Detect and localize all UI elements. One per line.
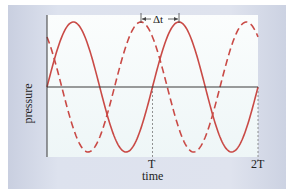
x-axis-label: time (142, 170, 163, 182)
x-tick-2T: 2T (251, 158, 264, 170)
reference-lines (153, 87, 259, 160)
y-axis-label: pressure (21, 74, 36, 134)
delta-t-label: Δt (153, 13, 163, 25)
wave-chart (0, 0, 293, 196)
